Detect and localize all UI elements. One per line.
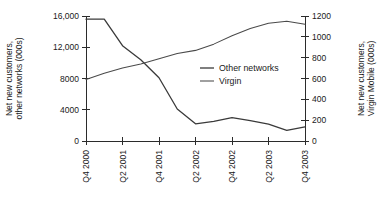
x-axis-tick-label: Q2 2001 xyxy=(118,150,128,183)
series-line-other-networks xyxy=(86,19,305,130)
legend-label: Virgin xyxy=(219,76,241,86)
left-axis: 04000800012,00016,000 xyxy=(53,11,90,146)
x-axis: Q4 2000Q2 2001Q4 2001Q2 2002Q4 2002Q2 20… xyxy=(81,137,310,183)
left-axis-tick-label: 12,000 xyxy=(53,42,79,52)
left-axis-tick-label: 16,000 xyxy=(53,11,79,21)
left-axis-title: Net new customers,other networks (000s) xyxy=(4,37,24,119)
line-chart: 04000800012,00016,000 020040060080010001… xyxy=(0,0,385,198)
x-axis-tick-label: Q4 2000 xyxy=(81,150,91,183)
left-axis-tick-label: 8000 xyxy=(60,74,79,84)
left-axis-tick-label: 0 xyxy=(74,136,79,146)
x-axis-tick-label: Q2 2003 xyxy=(264,150,274,183)
right-axis-tick-label: 1000 xyxy=(312,32,331,42)
right-axis-tick-label: 0 xyxy=(312,136,317,146)
right-axis: 020040060080010001200 xyxy=(301,11,331,146)
right-axis-tick-label: 400 xyxy=(312,94,326,104)
x-axis-tick-label: Q4 2001 xyxy=(154,150,164,183)
svg-text:other networks (000s): other networks (000s) xyxy=(14,37,24,119)
chart-legend: Other networksVirgin xyxy=(200,63,279,86)
svg-text:Net new customers,: Net new customers, xyxy=(356,41,366,116)
left-axis-tick-label: 4000 xyxy=(60,105,79,115)
x-axis-tick-label: Q2 2002 xyxy=(191,150,201,183)
legend-label: Other networks xyxy=(219,63,279,73)
chart-container: 04000800012,00016,000 020040060080010001… xyxy=(0,0,385,198)
series-lines xyxy=(86,19,305,130)
right-axis-title: Net new customers,Virgin Mobile (000s) xyxy=(356,41,376,117)
right-axis-tick-label: 600 xyxy=(312,74,326,84)
right-axis-tick-label: 1200 xyxy=(312,11,331,21)
right-axis-tick-label: 200 xyxy=(312,115,326,125)
x-axis-tick-label: Q4 2002 xyxy=(227,150,237,183)
svg-text:Net new customers,: Net new customers, xyxy=(4,41,14,116)
x-axis-tick-label: Q4 2003 xyxy=(300,150,310,183)
svg-text:Virgin Mobile (000s): Virgin Mobile (000s) xyxy=(366,41,376,117)
right-axis-tick-label: 800 xyxy=(312,53,326,63)
